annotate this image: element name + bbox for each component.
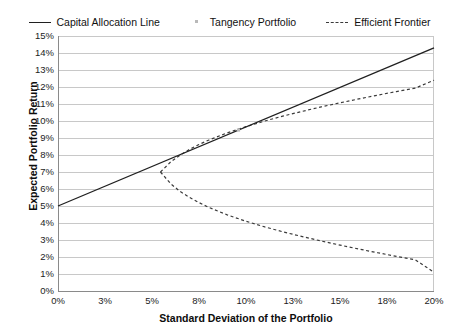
capital-allocation-line — [58, 48, 434, 206]
chart-container: Capital Allocation Line Tangency Portfol… — [0, 0, 459, 333]
tangency-portfolio-point — [237, 128, 240, 131]
efficient-frontier-upper-branch — [160, 80, 434, 172]
plot-area — [0, 0, 459, 333]
